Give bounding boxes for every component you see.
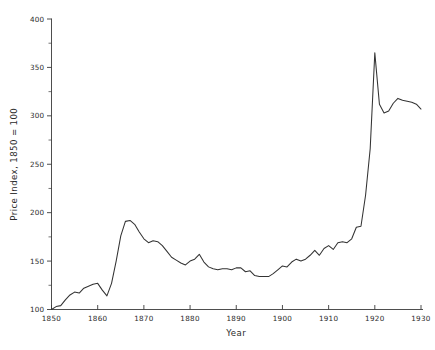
chart-figure: 100150200250300350400 185018601870188018… <box>0 0 435 350</box>
price-index-line-chart: 100150200250300350400 185018601870188018… <box>0 0 435 350</box>
x-axis-tick-labels: 185018601870188018901900191019201930 <box>42 314 431 323</box>
y-axis-title: Price Index, 1850 = 100 <box>9 108 19 221</box>
x-axis-title: Year <box>225 328 246 338</box>
y-axis-tick-labels: 100150200250300350400 <box>30 15 45 315</box>
x-tick-label: 1910 <box>319 314 339 323</box>
price-index-series-line <box>52 53 422 310</box>
x-tick-label: 1930 <box>411 314 431 323</box>
x-tick-label: 1860 <box>88 314 108 323</box>
y-tick-label: 400 <box>30 15 45 24</box>
x-tick-label: 1900 <box>273 314 293 323</box>
x-tick-label: 1850 <box>42 314 62 323</box>
y-tick-label: 200 <box>30 208 45 217</box>
x-tick-label: 1890 <box>227 314 247 323</box>
x-tick-label: 1870 <box>134 314 154 323</box>
y-tick-label: 150 <box>30 257 45 266</box>
y-axis-tick-marks <box>47 19 52 310</box>
y-tick-label: 300 <box>30 111 45 120</box>
y-tick-label: 350 <box>30 63 45 72</box>
y-tick-label: 250 <box>30 160 45 169</box>
x-tick-label: 1880 <box>180 314 200 323</box>
x-tick-label: 1920 <box>365 314 385 323</box>
x-axis-tick-marks <box>52 305 422 310</box>
